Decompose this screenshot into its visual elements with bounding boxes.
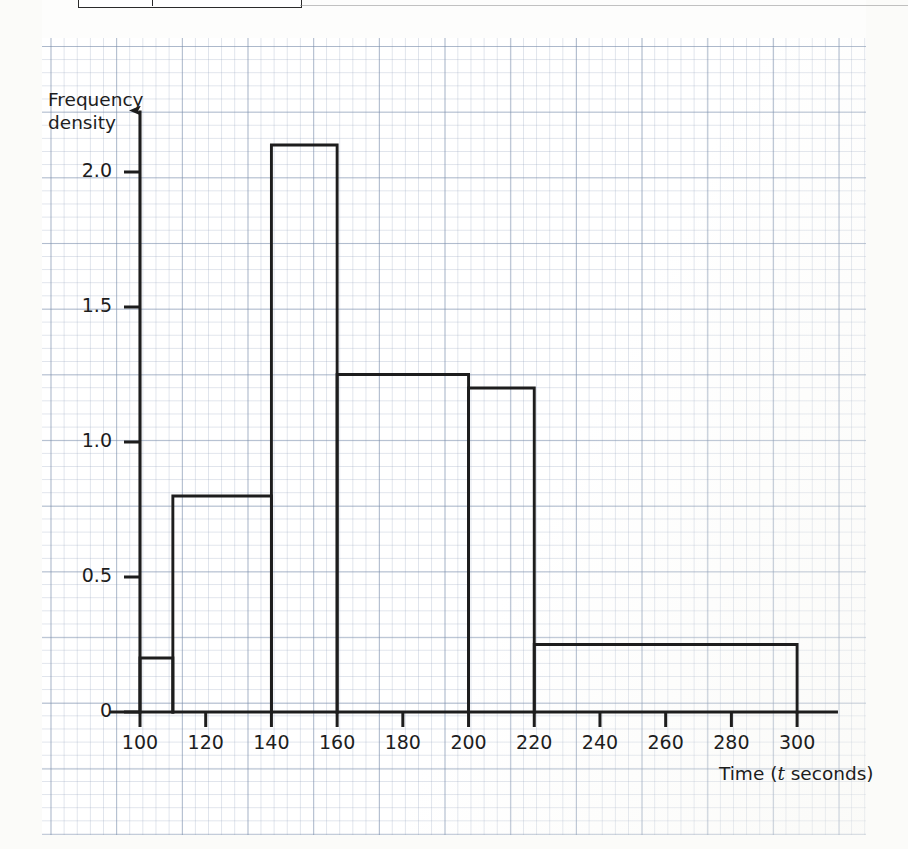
histogram-bar-3: [271, 145, 337, 712]
axes-lines: [110, 111, 838, 714]
page-canvas: Frequency density Time (t seconds) 00.51…: [0, 0, 908, 849]
histogram-bar-5: [469, 388, 535, 712]
histogram-bar-4: [337, 375, 468, 713]
histogram-bar-2: [173, 496, 272, 712]
histogram-bar-6: [534, 645, 797, 713]
histogram-bars: [140, 145, 797, 712]
histogram-bar-1: [140, 658, 173, 712]
histogram-plot: [0, 0, 908, 849]
